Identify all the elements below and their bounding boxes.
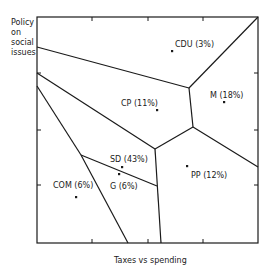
y-axis-label-line: on [11, 28, 37, 38]
boundary-line [155, 149, 161, 243]
y-axis-label-line: Policy [11, 18, 37, 28]
party-label-g: G (6%) [110, 182, 138, 191]
party-label-com: COM (6%) [53, 181, 93, 190]
party-dot-com [75, 196, 77, 198]
region-boundaries [37, 17, 258, 243]
boundary-line [37, 47, 189, 88]
voronoi-diagram [0, 0, 274, 270]
boundary-line [37, 73, 155, 149]
boundary-line [193, 127, 258, 167]
boundary-line [155, 127, 193, 149]
party-label-cdu: CDU (3%) [175, 40, 214, 49]
boundary-line [189, 88, 193, 127]
y-axis-label-line: issues [11, 48, 37, 58]
party-label-cp: CP (11%) [121, 99, 158, 108]
party-dot-g [118, 173, 120, 175]
party-dot-m [223, 101, 225, 103]
party-label-sd: SD (43%) [110, 155, 148, 164]
party-dot-pp [186, 165, 188, 167]
party-dot-cdu [171, 50, 173, 52]
x-axis-label: Taxes vs spending [114, 256, 187, 265]
party-dot-sd [121, 166, 123, 168]
party-dot-cp [156, 109, 158, 111]
boundary-line [189, 17, 258, 88]
y-axis-label: Policy on social issues [11, 18, 37, 58]
boundary-line [37, 86, 81, 155]
party-label-m: M (18%) [210, 91, 243, 100]
party-label-pp: PP (12%) [191, 171, 227, 180]
boundary-line [81, 155, 128, 243]
y-axis-label-line: social [11, 38, 37, 48]
